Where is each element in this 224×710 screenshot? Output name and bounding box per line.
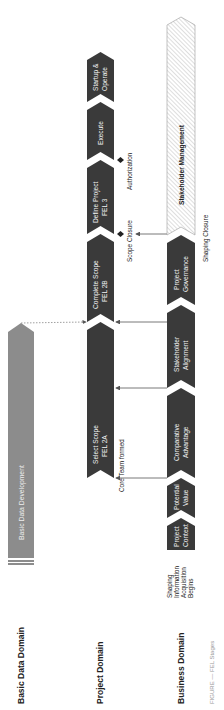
note-line: Begins [187,578,195,598]
milestone-core-team-formed: Core Team formed [118,439,125,492]
note-line: Information [173,566,180,598]
basic-data-development-label: Basic Data Development [18,465,26,540]
stage-label: Potential [173,484,180,510]
domain-label-business: Business Domain [176,633,186,704]
stage-sublabel: Operate [101,67,109,91]
stage-sublabel: Governance [182,256,189,292]
milestone-authorization: Authorization [126,152,133,190]
stage-label: Complete Scope [92,260,100,309]
stage-potential-value [167,478,195,518]
authorization-diamond-icon [117,157,124,163]
stage-sublabel: FEL 3 [101,198,108,216]
stage-project-context [167,518,195,550]
figure-caption: FIGURE — FEL Stages [209,641,215,704]
basic-data-development-bar: Basic Data Development [8,323,34,565]
stage-sublabel: FEL 2A [101,435,108,457]
fel-domain-diagram: Basic Data Domain Project Domain Busines… [0,0,224,710]
stage-project-governance [167,235,195,305]
stage-sublabel: Alignment [182,341,190,370]
stage-label: Comparative [173,423,181,461]
stage-label: Stakeholder [173,336,180,372]
stakeholder-management-label: Stakeholder Management [178,124,186,205]
stage-label: Define Project [92,181,100,223]
domain-label-basic-data: Basic Data Domain [16,627,26,704]
stage-sublabel: Value [182,489,189,506]
scope-closure-diamond-icon [117,231,124,237]
basic-data-link-line [21,322,86,323]
stage-label: Project [173,269,181,290]
stage-sublabel: FEL 2B [101,280,108,302]
business-stages [167,235,195,550]
stage-label: Execute [97,121,104,145]
milestone-scope-closure: Scope Closure [126,220,134,262]
stage-label: Project [173,526,181,547]
stakeholder-management-bar: Stakeholder Management [167,17,195,235]
stage-comparative-advantage [167,388,195,478]
stage-sublabel: Advantage [182,426,190,458]
stage-label: Startup & [92,63,100,91]
milestone-shaping-closure: Shaping Closure [202,214,210,262]
stage-stakeholder-alignment [167,305,195,388]
domain-label-project: Project Domain [95,642,105,704]
stage-sublabel: Context [182,524,189,547]
stage-label: Select Scope [92,425,100,464]
shaping-begins-note: Shaping Information Acquisition Begins [166,566,195,598]
